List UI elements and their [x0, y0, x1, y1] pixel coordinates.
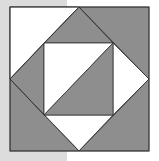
quilt-block-diagram: [0, 0, 159, 161]
